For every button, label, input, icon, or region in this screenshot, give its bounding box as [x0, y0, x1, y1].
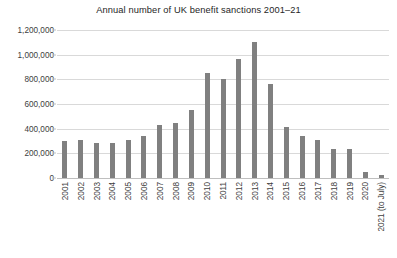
- bar[interactable]: [268, 84, 273, 178]
- x-axis-tick-label: 2021 (to July): [377, 182, 386, 232]
- bar[interactable]: [126, 140, 131, 178]
- x-axis-label-slot: 2005: [120, 180, 136, 250]
- x-axis-label-slot: 2013: [247, 180, 263, 250]
- x-axis-tick-label: 2014: [266, 182, 275, 200]
- y-axis-tick-label: 200,000: [0, 149, 54, 158]
- x-axis-label-slot: 2002: [73, 180, 89, 250]
- y-axis-tick-mark: [52, 79, 56, 80]
- bar-slot: [326, 30, 342, 178]
- bar[interactable]: [379, 175, 384, 178]
- x-axis-tick-label: 2020: [361, 182, 370, 200]
- bar[interactable]: [78, 140, 83, 178]
- bar-slot: [310, 30, 326, 178]
- bar-slot: [247, 30, 263, 178]
- y-axis-tick-label: 1,000,000: [0, 50, 54, 59]
- x-axis-label-slot: 2018: [326, 180, 342, 250]
- x-axis-label-slot: 2001: [57, 180, 73, 250]
- y-axis-tick-mark: [52, 153, 56, 154]
- bar-slot: [294, 30, 310, 178]
- bar[interactable]: [331, 149, 336, 178]
- x-axis: 2001200220032004200520062007200820092010…: [57, 180, 389, 250]
- bar-slot: [263, 30, 279, 178]
- bar-slot: [104, 30, 120, 178]
- bar[interactable]: [221, 79, 226, 178]
- x-axis-tick-label: 2015: [282, 182, 291, 200]
- gridline: [57, 178, 389, 179]
- y-axis-tick-label: 400,000: [0, 124, 54, 133]
- x-axis-label-slot: 2003: [89, 180, 105, 250]
- x-axis-tick-label: 2016: [298, 182, 307, 200]
- bar-slot: [184, 30, 200, 178]
- x-axis-label-slot: 2004: [104, 180, 120, 250]
- x-axis-label-slot: 2019: [342, 180, 358, 250]
- x-axis-label-slot: 2016: [294, 180, 310, 250]
- bar-slot: [231, 30, 247, 178]
- bar-series: [57, 30, 389, 178]
- bar[interactable]: [62, 141, 67, 178]
- x-axis-tick-label: 2013: [250, 182, 259, 200]
- y-axis-tick-mark: [52, 178, 56, 179]
- x-axis-label-slot: 2009: [184, 180, 200, 250]
- x-axis-tick-label: 2019: [345, 182, 354, 200]
- bar-slot: [152, 30, 168, 178]
- x-axis-label-slot: 2011: [215, 180, 231, 250]
- bar[interactable]: [315, 140, 320, 178]
- bar-slot: [357, 30, 373, 178]
- x-axis-tick-label: 2011: [219, 182, 228, 200]
- chart-figure: Annual number of UK benefit sanctions 20…: [0, 0, 397, 258]
- x-axis-label-slot: 2021 (to July): [373, 180, 389, 250]
- x-axis-label-slot: 2017: [310, 180, 326, 250]
- bar-slot: [73, 30, 89, 178]
- bar[interactable]: [173, 123, 178, 179]
- bar[interactable]: [141, 136, 146, 178]
- x-axis-tick-label: 2002: [76, 182, 85, 200]
- bar[interactable]: [110, 143, 115, 178]
- y-axis-tick-label: 600,000: [0, 100, 54, 109]
- x-axis-label-slot: 2012: [231, 180, 247, 250]
- bar[interactable]: [236, 59, 241, 178]
- x-axis-tick-label: 2005: [124, 182, 133, 200]
- x-axis-tick-label: 2001: [60, 182, 69, 200]
- bar-slot: [199, 30, 215, 178]
- bar-slot: [120, 30, 136, 178]
- bar-slot: [168, 30, 184, 178]
- x-axis-label-slot: 2015: [278, 180, 294, 250]
- bar[interactable]: [205, 73, 210, 178]
- x-axis-label-slot: 2008: [168, 180, 184, 250]
- bar[interactable]: [300, 136, 305, 178]
- x-axis-label-slot: 2014: [263, 180, 279, 250]
- y-axis-tick-mark: [52, 30, 56, 31]
- x-axis-tick-label: 2004: [108, 182, 117, 200]
- x-axis-tick-label: 2010: [203, 182, 212, 200]
- bar[interactable]: [94, 143, 99, 178]
- bar-slot: [57, 30, 73, 178]
- x-axis-label-slot: 2006: [136, 180, 152, 250]
- x-axis-tick-label: 2012: [234, 182, 243, 200]
- x-axis-tick-label: 2003: [92, 182, 101, 200]
- bar[interactable]: [157, 125, 162, 178]
- bar-slot: [89, 30, 105, 178]
- bar[interactable]: [252, 42, 257, 178]
- x-axis-tick-label: 2008: [171, 182, 180, 200]
- x-axis-tick-label: 2007: [155, 182, 164, 200]
- bar[interactable]: [284, 127, 289, 178]
- x-axis-label-slot: 2007: [152, 180, 168, 250]
- bar[interactable]: [363, 172, 368, 178]
- chart-title: Annual number of UK benefit sanctions 20…: [0, 5, 397, 15]
- y-axis-tick-label: 0: [0, 174, 54, 183]
- bar[interactable]: [189, 110, 194, 178]
- bar-slot: [136, 30, 152, 178]
- x-axis-tick-label: 2009: [187, 182, 196, 200]
- y-axis-tick-mark: [52, 128, 56, 129]
- x-axis-tick-label: 2017: [313, 182, 322, 200]
- y-axis-tick-label: 1,200,000: [0, 26, 54, 35]
- y-axis-tick-mark: [52, 104, 56, 105]
- bar-slot: [342, 30, 358, 178]
- bar-slot: [373, 30, 389, 178]
- bar-slot: [215, 30, 231, 178]
- plot-area: [57, 30, 389, 178]
- bar[interactable]: [347, 149, 352, 178]
- x-axis-label-slot: 2020: [357, 180, 373, 250]
- x-axis-label-slot: 2010: [199, 180, 215, 250]
- y-axis-tick-label: 800,000: [0, 75, 54, 84]
